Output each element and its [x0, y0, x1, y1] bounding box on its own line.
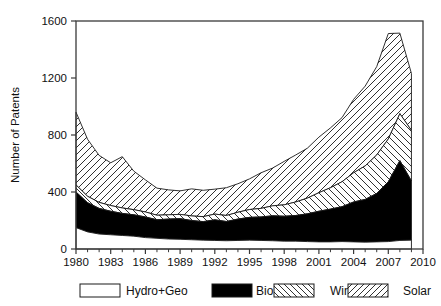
legend-item-solar[interactable]: Solar — [348, 284, 431, 298]
x-axis-tick-labels: 1980198319861989199219951998200120042007… — [63, 256, 436, 268]
legend-label: Hydro+Geo — [126, 284, 188, 298]
y-tick-label: 0 — [61, 243, 67, 255]
y-axis-tick-marks — [71, 21, 76, 249]
x-tick-label: 2010 — [410, 256, 436, 268]
legend-item-bio[interactable]: Bio — [212, 284, 274, 298]
y-tick-label: 400 — [48, 186, 67, 198]
y-axis-title-group: Number of Patents — [9, 87, 21, 183]
legend-label: Bio — [256, 284, 274, 298]
x-tick-label: 1989 — [167, 256, 193, 268]
legend-swatch-solid — [212, 284, 252, 297]
x-tick-label: 2007 — [376, 256, 402, 268]
legend-swatch-backslash — [274, 284, 314, 297]
patents-stacked-area-chart: Number of Patents 040080012001600 198019… — [0, 0, 441, 306]
legend-label: Solar — [403, 284, 431, 298]
x-tick-label: 1995 — [237, 256, 263, 268]
x-tick-label: 1986 — [133, 256, 159, 268]
y-tick-label: 1200 — [41, 72, 67, 84]
x-tick-label: 2004 — [341, 256, 367, 268]
legend-item-hydro-geo[interactable]: Hydro+Geo — [80, 284, 188, 298]
x-tick-label: 1980 — [63, 256, 89, 268]
chart-canvas: Number of Patents 040080012001600 198019… — [0, 0, 441, 306]
y-axis-tick-labels: 040080012001600 — [41, 15, 67, 255]
x-tick-label: 1983 — [98, 256, 124, 268]
y-tick-label: 800 — [48, 129, 67, 141]
x-tick-label: 1992 — [202, 256, 228, 268]
x-tick-label: 2001 — [306, 256, 332, 268]
legend-swatch-slash — [348, 284, 388, 297]
legend-item-wind[interactable]: Wind — [274, 284, 357, 298]
x-tick-label: 1998 — [271, 256, 297, 268]
x-axis-tick-marks — [76, 249, 423, 254]
stacked-area-series — [76, 33, 411, 249]
y-axis-title: Number of Patents — [9, 87, 21, 183]
y-tick-label: 1600 — [41, 15, 67, 27]
chart-legend: Hydro+GeoBioWindSolar — [80, 284, 431, 298]
legend-swatch-empty — [80, 284, 120, 297]
